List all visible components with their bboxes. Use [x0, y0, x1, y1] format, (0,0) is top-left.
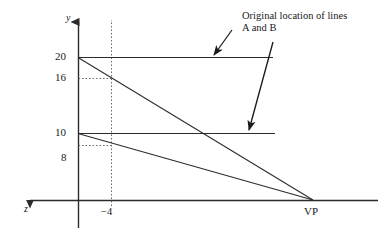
tick-label-y-8: 8	[61, 151, 67, 164]
annotation-text-line-1: Original location of lines	[242, 10, 347, 22]
tick-label-y-20: 20	[55, 50, 66, 63]
diagram-canvas	[0, 0, 388, 236]
annotation-text-line-2: A and B	[242, 22, 276, 34]
tick-label-y-16: 16	[55, 71, 66, 84]
tick-label-z-minus-4: −4	[101, 206, 112, 218]
annotation-arrow-to-line-a	[214, 30, 232, 55]
tick-label-y-10: 10	[55, 126, 66, 139]
y-axis-label: y	[66, 12, 70, 24]
annotation-arrow-to-line-b	[249, 42, 273, 130]
line-b-projected-to-vp	[78, 134, 313, 201]
vanishing-point-label: VP	[304, 205, 318, 218]
figure-container: y z 20 16 10 8 −4 VP Original location o…	[0, 0, 388, 236]
line-a-projected-to-vp	[78, 58, 313, 201]
z-axis-label: z	[24, 203, 28, 215]
